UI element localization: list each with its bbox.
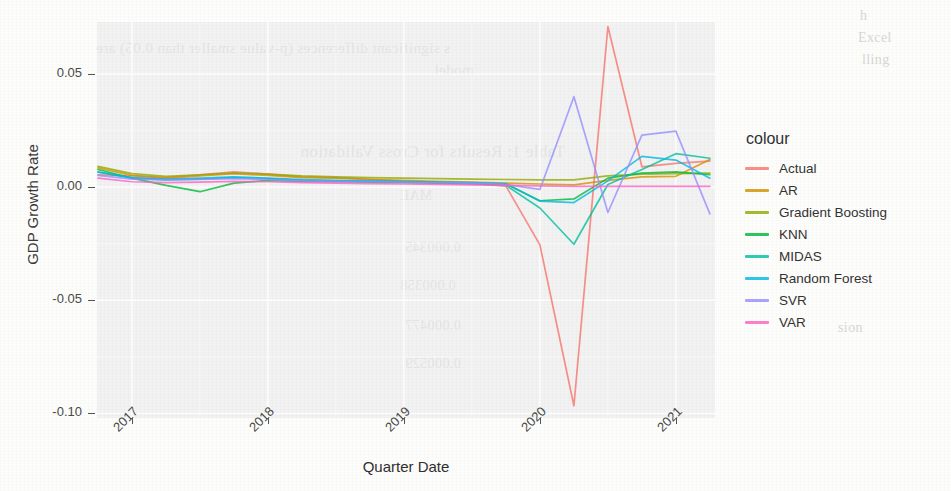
legend-item-random-forest[interactable]: Random Forest bbox=[744, 268, 887, 288]
y-axis-tick-label: -0.10 bbox=[0, 404, 82, 419]
legend-item-label: VAR bbox=[779, 315, 806, 330]
legend-item-label: Gradient Boosting bbox=[779, 205, 887, 220]
legend-key-swatch bbox=[744, 203, 770, 221]
y-axis-tick-labels: 0.050.00-0.05-0.10 bbox=[0, 0, 82, 491]
x-axis-title: Quarter Date bbox=[97, 458, 715, 475]
legend-key-swatch bbox=[744, 159, 770, 177]
gdp-growth-rate-line-chart: 0.050.00-0.05-0.10 GDP Growth Rate 20172… bbox=[0, 0, 951, 491]
legend-item-label: SVR bbox=[779, 293, 807, 308]
series-line-midas bbox=[98, 154, 710, 245]
y-axis-tick-mark bbox=[88, 300, 95, 301]
legend-key-swatch bbox=[744, 181, 770, 199]
legend-item-label: KNN bbox=[779, 227, 808, 242]
legend-key-swatch bbox=[744, 247, 770, 265]
legend-title: colour bbox=[744, 130, 887, 148]
x-axis-tick-mark bbox=[676, 418, 677, 424]
series-line-svr bbox=[98, 97, 710, 214]
y-axis-tick-label: 0.00 bbox=[0, 178, 82, 193]
legend-item-label: Actual bbox=[779, 161, 817, 176]
y-axis-title: GDP Growth Rate bbox=[24, 95, 41, 315]
y-axis-tick-label: 0.05 bbox=[0, 65, 82, 80]
legend: colour ActualARGradient BoostingKNNMIDAS… bbox=[744, 130, 887, 334]
y-axis-tick-mark bbox=[88, 413, 95, 414]
legend-key-swatch bbox=[744, 313, 770, 331]
legend-items: ActualARGradient BoostingKNNMIDASRandom … bbox=[744, 158, 887, 332]
series-line-actual bbox=[98, 27, 710, 406]
legend-item-knn[interactable]: KNN bbox=[744, 224, 887, 244]
legend-item-label: MIDAS bbox=[779, 249, 822, 264]
y-axis-tick-label: -0.05 bbox=[0, 291, 82, 306]
legend-key-swatch bbox=[744, 225, 770, 243]
legend-item-var[interactable]: VAR bbox=[744, 312, 887, 332]
x-axis-tick-mark bbox=[540, 418, 541, 424]
series-lines bbox=[97, 22, 715, 418]
legend-item-label: Random Forest bbox=[779, 271, 872, 286]
y-axis-tick-mark bbox=[88, 187, 95, 188]
legend-key-swatch bbox=[744, 291, 770, 309]
legend-item-ar[interactable]: AR bbox=[744, 180, 887, 200]
legend-item-actual[interactable]: Actual bbox=[744, 158, 887, 178]
x-axis-tick-mark bbox=[268, 418, 269, 424]
legend-item-midas[interactable]: MIDAS bbox=[744, 246, 887, 266]
legend-key-swatch bbox=[744, 269, 770, 287]
y-axis-tick-mark bbox=[88, 74, 95, 75]
legend-item-svr[interactable]: SVR bbox=[744, 290, 887, 310]
x-axis-tick-mark bbox=[132, 418, 133, 424]
x-axis-tick-mark bbox=[404, 418, 405, 424]
legend-item-gradient-boosting[interactable]: Gradient Boosting bbox=[744, 202, 887, 222]
legend-item-label: AR bbox=[779, 183, 798, 198]
